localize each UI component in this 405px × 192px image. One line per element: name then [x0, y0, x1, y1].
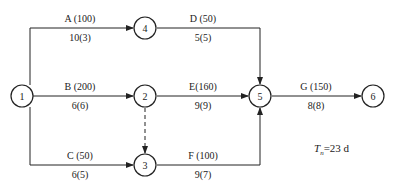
activity-d-bottom: 5(5) — [195, 32, 212, 43]
network-diagram: 1 4 2 3 5 6 — [0, 0, 405, 192]
activity-a-bottom: 10(3) — [69, 32, 91, 43]
activity-a-top: A (100) — [65, 13, 96, 24]
node-label-3: 3 — [143, 160, 148, 171]
activity-f-bottom: 9(7) — [195, 169, 212, 180]
activity-f-top: F (100) — [188, 150, 218, 161]
node-label-4: 4 — [143, 23, 148, 34]
activity-c-bottom: 6(5) — [72, 169, 89, 180]
total-duration: Tn=23 d — [314, 142, 349, 157]
node-label-1: 1 — [20, 91, 25, 102]
activity-b-bottom: 6(6) — [72, 100, 89, 111]
activity-d-top: D (50) — [190, 13, 216, 24]
node-label-5: 5 — [258, 91, 263, 102]
activity-e-bottom: 9(9) — [195, 100, 212, 111]
activity-g-bottom: 8(8) — [308, 100, 325, 111]
node-label-2: 2 — [143, 91, 148, 102]
node-label-6: 6 — [371, 91, 376, 102]
activity-e-top: E(160) — [189, 81, 217, 92]
activity-c-top: C (50) — [67, 150, 93, 161]
activity-b-top: B (200) — [65, 81, 96, 92]
activity-g-top: G (150) — [300, 81, 331, 92]
